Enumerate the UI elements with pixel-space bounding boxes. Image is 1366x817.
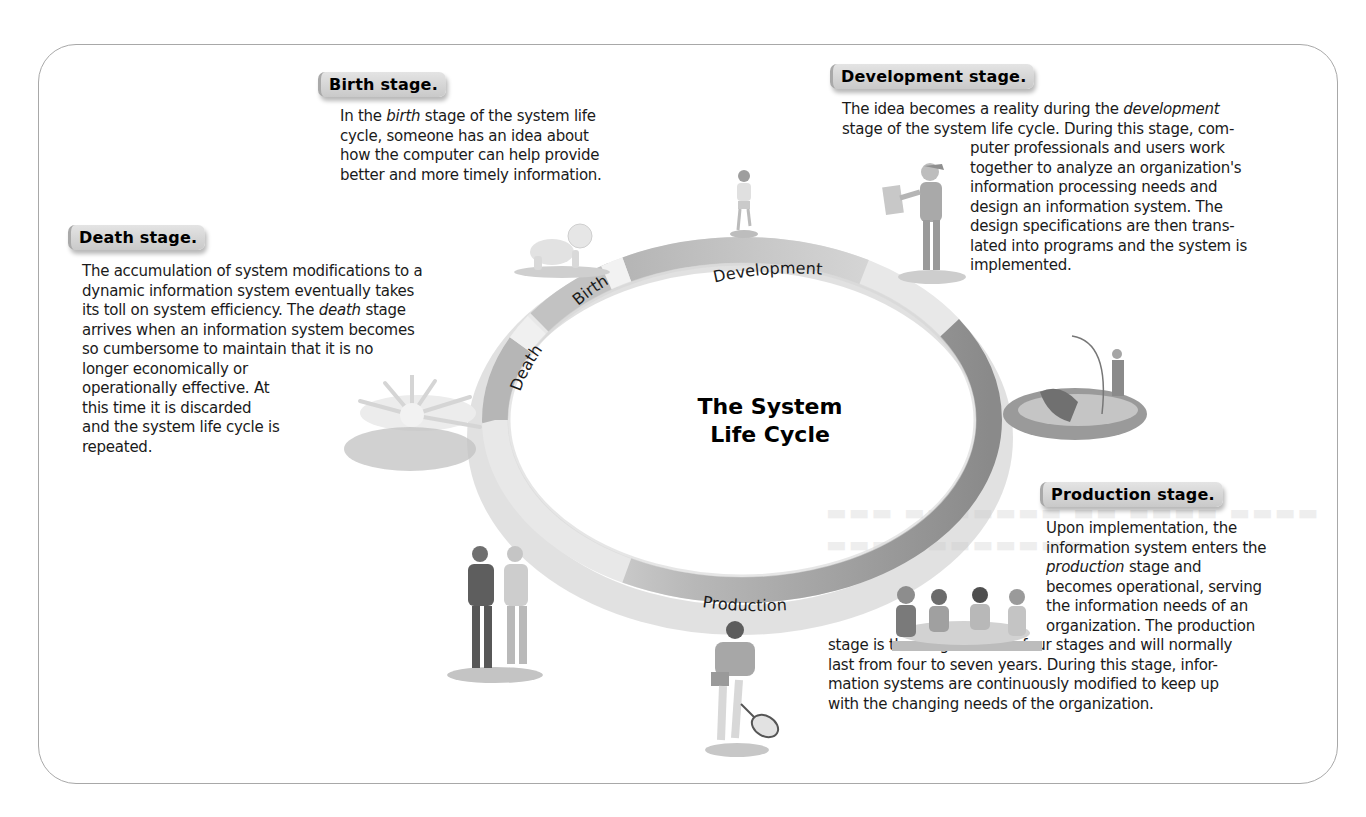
text-line: the information needs of an bbox=[1046, 597, 1266, 617]
text-line: Upon implementation, the bbox=[1046, 519, 1266, 539]
text-line: becomes operational, serving bbox=[1046, 578, 1266, 598]
walking-toddler-illustration bbox=[722, 168, 766, 240]
student-illustration bbox=[880, 160, 966, 285]
diagram-title-line-1: The System bbox=[630, 393, 910, 421]
production-stage-heading: Production stage. bbox=[1040, 482, 1223, 507]
text-line: dynamic information system eventually ta… bbox=[82, 282, 423, 302]
text-line: how the computer can help provide bbox=[340, 146, 602, 166]
text-line: lated into programs and the system is bbox=[970, 237, 1247, 257]
death-stage-heading: Death stage. bbox=[68, 225, 205, 250]
text-line: mation systems are continuously modified… bbox=[828, 675, 1266, 695]
text-line: information system enters the bbox=[1046, 539, 1266, 559]
diagram-title: The System Life Cycle bbox=[630, 393, 910, 449]
text-line: organization. The production bbox=[1046, 617, 1266, 637]
birth-stage-heading: Birth stage. bbox=[318, 72, 446, 97]
tennis-player-illustration bbox=[695, 620, 785, 760]
text-line: its toll on system efficiency. The death… bbox=[82, 301, 423, 321]
text-line: The accumulation of system modifications… bbox=[82, 262, 423, 282]
setting-sun-illustration bbox=[340, 375, 490, 475]
text-line: cycle, someone has an idea about bbox=[340, 127, 602, 147]
development-stage-heading: Development stage. bbox=[830, 64, 1034, 89]
text-line: design an information system. The bbox=[970, 198, 1247, 218]
birth-stage-text: In the birth stage of the system life cy… bbox=[340, 107, 602, 185]
text-line: The idea becomes a reality during the de… bbox=[842, 100, 1247, 120]
text-line: so cumbersome to maintain that it is no bbox=[82, 340, 423, 360]
text-line: design specifications are then trans- bbox=[970, 217, 1247, 237]
fisherman-illustration bbox=[1000, 332, 1150, 452]
text-line: better and more timely information. bbox=[340, 166, 602, 186]
meeting-illustration bbox=[884, 575, 1044, 655]
walking-couple-illustration bbox=[440, 540, 550, 685]
text-line: together to analyze an organization's bbox=[970, 159, 1247, 179]
text-line: with the changing needs of the organizat… bbox=[828, 695, 1266, 715]
diagram-title-line-2: Life Cycle bbox=[630, 421, 910, 449]
crawling-baby-illustration bbox=[512, 210, 612, 280]
text-line: implemented. bbox=[970, 256, 1247, 276]
text-line: last from four to seven years. During th… bbox=[828, 656, 1266, 676]
text-line: stage of the system life cycle. During t… bbox=[842, 120, 1247, 140]
text-line: production stage and bbox=[1046, 558, 1266, 578]
text-line: puter professionals and users work bbox=[970, 139, 1247, 159]
text-line: information processing needs and bbox=[970, 178, 1247, 198]
text-line: In the birth stage of the system life bbox=[340, 107, 602, 127]
text-line: arrives when an information system becom… bbox=[82, 321, 423, 341]
